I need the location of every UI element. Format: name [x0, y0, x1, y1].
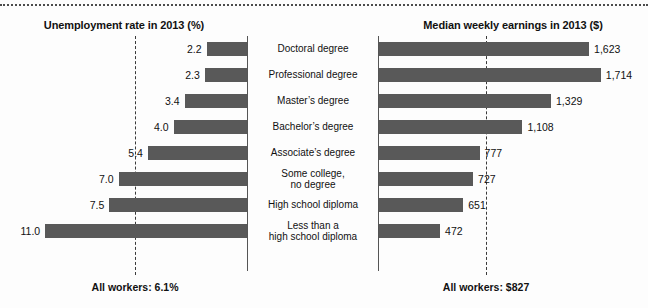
chart-row: 2.3Professional degree1,714: [0, 62, 648, 88]
chart-row: 4.0Bachelor’s degree1,108: [0, 114, 648, 140]
right-average-label: All workers: $827: [386, 281, 586, 293]
category-label: Bachelor’s degree: [249, 114, 377, 140]
left-panel-title: Unemployment rate in 2013 (%): [0, 19, 248, 31]
unemployment-value-label: 3.4: [0, 93, 180, 109]
unemployment-bar: [205, 68, 247, 82]
earnings-value-label: 651: [468, 197, 486, 213]
unemployment-value-label: 7.0: [0, 171, 114, 187]
unemployment-value-label: 2.2: [0, 41, 202, 57]
unemployment-value-label: 7.5: [0, 197, 104, 213]
earnings-bar: [379, 68, 601, 82]
earnings-bar: [379, 172, 473, 186]
unemployment-value-label: 2.3: [0, 67, 200, 83]
chart-row: 2.2Doctoral degree1,623: [0, 36, 648, 62]
earnings-value-label: 1,714: [606, 67, 632, 83]
unemployment-bar: [45, 224, 247, 238]
category-label: Less than ahigh school diploma: [249, 218, 377, 244]
unemployment-bar: [185, 94, 247, 108]
earnings-bar: [379, 198, 463, 212]
chart-row: 11.0Less than ahigh school diploma472: [0, 218, 648, 244]
top-dotted-rule: [0, 4, 648, 6]
chart-row: 7.0Some college,no degree727: [0, 166, 648, 192]
chart-row: 3.4Master’s degree1,329: [0, 88, 648, 114]
left-average-label: All workers: 6.1%: [35, 281, 235, 293]
earnings-value-label: 1,108: [527, 119, 553, 135]
earnings-value-label: 1,623: [594, 41, 620, 57]
earnings-bar: [379, 146, 480, 160]
unemployment-bar: [148, 146, 247, 160]
earnings-bar: [379, 94, 551, 108]
unemployment-value-label: 4.0: [0, 119, 169, 135]
earnings-value-label: 472: [445, 223, 463, 239]
right-panel-title: Median weekly earnings in 2013 ($): [378, 19, 648, 31]
unemployment-bar: [109, 198, 247, 212]
chart-row: 5.4Associate’s degree777: [0, 140, 648, 166]
category-label: High school diploma: [249, 192, 377, 218]
category-label: Master’s degree: [249, 88, 377, 114]
category-label: Some college,no degree: [249, 166, 377, 192]
category-label: Doctoral degree: [249, 36, 377, 62]
earnings-value-label: 727: [478, 171, 496, 187]
earnings-bar: [379, 120, 522, 134]
earnings-bar: [379, 42, 589, 56]
unemployment-bar: [207, 42, 247, 56]
unemployment-value-label: 5.4: [0, 145, 143, 161]
chart-row: 7.5High school diploma651: [0, 192, 648, 218]
category-label: Associate’s degree: [249, 140, 377, 166]
earnings-value-label: 1,329: [556, 93, 582, 109]
unemployment-bar: [119, 172, 247, 186]
earnings-value-label: 777: [485, 145, 503, 161]
unemployment-value-label: 11.0: [0, 223, 40, 239]
unemployment-bar: [174, 120, 247, 134]
earnings-bar: [379, 224, 440, 238]
chart-figure: Unemployment rate in 2013 (%) Median wee…: [0, 0, 648, 308]
category-label: Professional degree: [249, 62, 377, 88]
